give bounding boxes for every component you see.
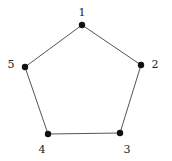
vertex-2 [138, 62, 144, 68]
vertex-label-3: 3 [124, 143, 131, 156]
edge-4-5 [25, 67, 48, 134]
edge-2-3 [120, 65, 141, 133]
edge-3-4 [48, 133, 120, 134]
vertex-label-2: 2 [152, 58, 159, 71]
vertex-label-5: 5 [8, 58, 15, 71]
vertex-5 [22, 64, 28, 70]
vertex-4 [45, 131, 51, 137]
vertex-1 [79, 22, 85, 28]
pentagon-graph: 1 2 3 4 5 [0, 0, 172, 161]
vertex-3 [117, 130, 123, 136]
vertex-label-1: 1 [79, 6, 86, 19]
edge-1-2 [82, 25, 141, 65]
edge-5-1 [25, 25, 82, 67]
vertices [22, 22, 144, 137]
edges [25, 25, 141, 134]
vertex-label-4: 4 [39, 143, 46, 156]
